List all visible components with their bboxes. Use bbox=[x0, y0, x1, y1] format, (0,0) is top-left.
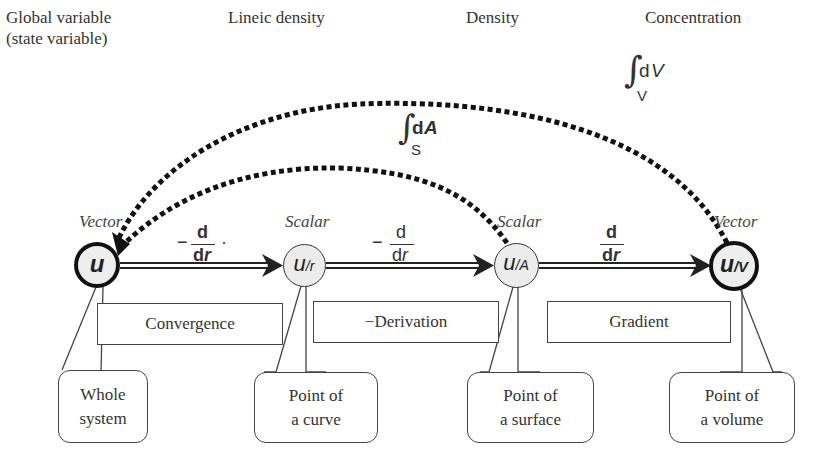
volume-integral-var: V bbox=[651, 60, 664, 82]
box-derivation: −Derivation bbox=[313, 301, 499, 343]
callout-line2: a surface bbox=[500, 408, 561, 432]
operator-numerator: d bbox=[396, 222, 406, 243]
operator-denominator: dr bbox=[602, 245, 620, 266]
callout-line1: Point of bbox=[500, 384, 561, 408]
operator-gradient: d dr bbox=[598, 222, 638, 272]
callout-line1: Point of bbox=[701, 384, 764, 408]
node-u-A: u/A bbox=[494, 243, 539, 288]
surface-integral-var: A bbox=[424, 117, 438, 139]
callout-whole-system: Wholesystem bbox=[58, 370, 148, 443]
type-label-ur: Scalar bbox=[285, 212, 329, 232]
callout-point-of-curve: Point ofa curve bbox=[254, 372, 378, 443]
type-label-uV: Vector bbox=[714, 212, 757, 232]
operator-convergence: − d dr · bbox=[177, 222, 237, 272]
node-u-V: u/V bbox=[709, 241, 759, 291]
operator-numerator: d bbox=[606, 222, 617, 243]
operator-sign: − bbox=[177, 232, 188, 253]
surface-integral-label: ∫ d A S bbox=[398, 113, 458, 163]
node-u: u bbox=[74, 242, 120, 288]
node-u-r: u/r bbox=[283, 244, 326, 287]
callout-point-of-surface: Point ofa surface bbox=[467, 372, 594, 443]
volume-integral-d: d bbox=[639, 60, 650, 82]
type-label-uA: Scalar bbox=[497, 212, 541, 232]
volume-integral-domain: V bbox=[637, 87, 647, 104]
surface-integral-d: d bbox=[412, 117, 424, 139]
box-convergence: Convergence bbox=[97, 303, 283, 345]
callout-line1: Whole bbox=[79, 383, 126, 407]
type-label-u: Vector bbox=[79, 212, 122, 232]
operator-sign: − bbox=[372, 232, 383, 253]
callout-point-of-volume: Point ofa volume bbox=[669, 372, 795, 443]
callout-line2: a curve bbox=[289, 408, 343, 432]
callout-line2: a volume bbox=[701, 408, 764, 432]
operator-denominator: dr bbox=[193, 245, 211, 266]
node-uV-label: u/V bbox=[713, 251, 755, 278]
operator-denominator: dr bbox=[392, 245, 408, 266]
volume-integral-label: ∫ d V V bbox=[624, 55, 684, 115]
operator-numerator: d bbox=[197, 222, 208, 243]
callout-line2: system bbox=[79, 407, 126, 431]
operator-derivation: − d dr bbox=[372, 222, 432, 272]
node-u-label: u bbox=[78, 250, 116, 278]
box-gradient: Gradient bbox=[547, 301, 731, 343]
node-ur-label: u/r bbox=[284, 251, 324, 277]
operator-dot: · bbox=[221, 232, 227, 253]
node-uA-label: u/A bbox=[495, 250, 537, 276]
callout-line1: Point of bbox=[289, 384, 343, 408]
surface-integral-domain: S bbox=[411, 141, 421, 158]
